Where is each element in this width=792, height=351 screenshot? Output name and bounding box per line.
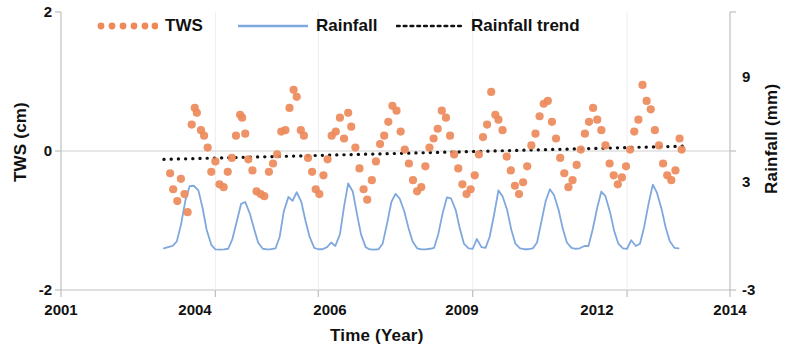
x-tick-2009: 2009 bbox=[432, 301, 492, 318]
legend-item-rainfall: Rainfall bbox=[237, 16, 377, 36]
y-right-tick-minus3: -3 bbox=[742, 281, 776, 298]
legend-item-rainfall-trend: Rainfall trend bbox=[396, 16, 580, 36]
x-tick-2004: 2004 bbox=[165, 301, 225, 318]
x-tick-2014: 2014 bbox=[700, 301, 760, 318]
rainfall-trend-dotted-marker-icon bbox=[396, 19, 464, 33]
legend-item-tws: TWS bbox=[96, 16, 203, 36]
chart-plot-area bbox=[0, 0, 792, 351]
x-tick-2012: 2012 bbox=[567, 301, 627, 318]
legend-label-rainfall: Rainfall bbox=[316, 16, 377, 36]
y-left-tick-minus2: -2 bbox=[18, 281, 52, 298]
x-tick-2006: 2006 bbox=[300, 301, 360, 318]
legend-label-rainfall-trend: Rainfall trend bbox=[471, 16, 580, 36]
tws-dotted-marker-icon bbox=[96, 19, 158, 33]
x-axis-title: Time (Year) bbox=[330, 326, 424, 346]
tws-series-scatter bbox=[166, 81, 686, 216]
legend-label-tws: TWS bbox=[165, 16, 203, 36]
y-right-tick-9: 9 bbox=[742, 68, 776, 85]
chart-figure: TWS (cm) Rainfall (mm) Time (Year) 2 0 -… bbox=[0, 0, 792, 351]
rainfall-series-line bbox=[164, 183, 679, 249]
y-right-tick-3: 3 bbox=[742, 173, 776, 190]
y-left-tick-0: 0 bbox=[18, 142, 52, 159]
y-left-tick-2: 2 bbox=[18, 3, 52, 20]
rainfall-line-marker-icon bbox=[237, 19, 309, 33]
x-tick-2001: 2001 bbox=[31, 301, 91, 318]
